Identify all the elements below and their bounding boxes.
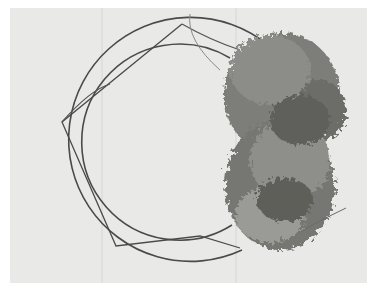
wire-brace	[62, 24, 240, 248]
moss-cluster	[224, 33, 346, 250]
loose-wire	[190, 14, 220, 70]
wreath-illustration	[0, 0, 377, 291]
wreath-photo	[0, 0, 377, 291]
inner-wire-ring	[82, 44, 232, 240]
